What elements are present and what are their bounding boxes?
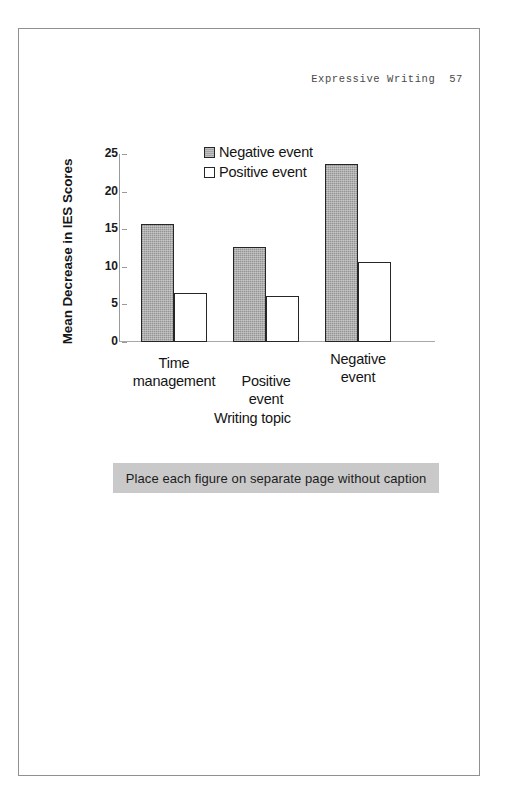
bar [233,247,266,343]
y-axis-tick-mark [122,304,127,305]
x-axis-title: Writing topic [214,410,291,426]
plot-area: 0510152025 [119,154,417,342]
legend-label: Negative event [219,144,313,160]
bar [358,262,391,342]
bar [141,224,174,342]
x-axis-category-label-line: event [206,390,326,408]
y-axis-tick-mark [122,267,127,268]
y-axis-tick-label: 10 [105,260,118,273]
legend-swatch [204,147,215,158]
y-axis-line [119,154,120,342]
x-axis-category-label-line: event [298,368,418,386]
x-axis-category-label-line: Time [114,354,234,372]
bar-group [325,154,391,342]
y-axis-tick-label: 25 [105,147,118,160]
y-axis-tick-label: 0 [111,335,118,348]
x-axis-category-label-line: Negative [298,350,418,368]
y-axis-tick-mark [122,154,127,155]
figure-bar-chart: Mean Decrease in IES Scores 0510152025 N… [19,124,481,429]
x-axis-category-label: Negativeevent [298,350,418,386]
bar [325,164,358,342]
annotation-banner: Place each figure on separate page witho… [113,463,439,493]
bar-group [141,154,207,342]
bar-group [233,154,299,342]
y-axis-tick-label: 20 [105,185,118,198]
y-axis-tick-label: 5 [111,297,118,310]
y-axis-tick-mark [122,192,127,193]
legend-item: Negative event [204,142,313,162]
bar [174,293,207,342]
legend-item: Positive event [204,162,313,182]
annotation-text: Place each figure on separate page witho… [126,471,427,486]
y-axis-tick-mark [122,229,127,230]
chart-legend: Negative eventPositive event [204,142,313,182]
legend-swatch [204,167,215,178]
legend-label: Positive event [219,164,306,180]
running-head: Expressive Writing 57 [311,73,463,85]
document-page: Expressive Writing 57 Mean Decrease in I… [18,28,480,776]
bar [266,296,299,342]
y-axis-tick-mark [122,342,127,343]
y-axis-tick-label: 15 [105,222,118,235]
y-axis-title: Mean Decrease in IES Scores [60,152,75,352]
